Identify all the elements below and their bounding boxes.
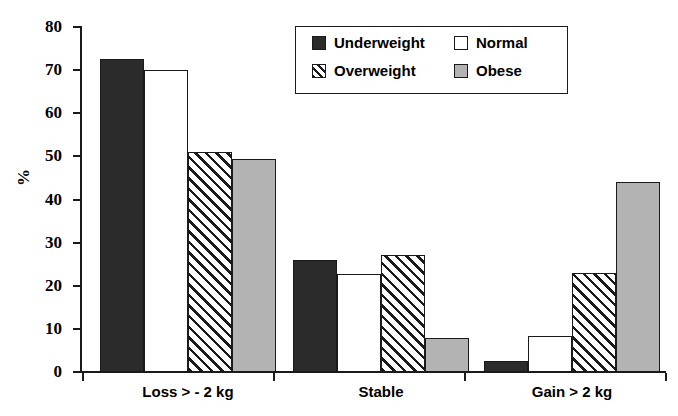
x-axis-tick-mark — [464, 373, 466, 381]
legend-swatch-overweight-icon — [312, 64, 326, 78]
y-axis-tick-mark — [73, 112, 81, 114]
legend-swatch-normal-icon — [454, 36, 468, 50]
x-axis-tick-mark — [273, 373, 275, 381]
y-axis-tick-mark — [73, 26, 81, 28]
y-axis-tick-mark — [73, 371, 81, 373]
x-axis-end-tick-mark — [665, 373, 667, 381]
legend-item-obese: Obese — [454, 63, 522, 79]
bar-underweight-group-0 — [100, 59, 144, 372]
bar-obese-group-2 — [616, 182, 660, 372]
bar-obese-group-0 — [232, 159, 276, 372]
x-axis-category-label: Stable — [273, 382, 489, 402]
y-axis-tick-mark — [73, 155, 81, 157]
y-axis-tick-mark — [73, 242, 81, 244]
bar-normal-group-2 — [528, 336, 572, 372]
x-axis-category-label: Loss > - 2 kg — [80, 382, 296, 402]
legend-swatch-obese-icon — [454, 64, 468, 78]
legend-label: Obese — [476, 63, 522, 79]
y-axis-tick-mark — [73, 285, 81, 287]
legend: UnderweightNormalOverweightObese — [295, 26, 568, 94]
bar-obese-group-1 — [425, 338, 469, 373]
bar-underweight-group-1 — [293, 260, 337, 372]
legend-item-underweight: Underweight — [312, 35, 425, 51]
legend-item-normal: Normal — [454, 35, 528, 51]
legend-label: Normal — [476, 35, 528, 51]
x-axis-category-label: Gain > 2 kg — [464, 382, 678, 402]
bar-overweight-group-0 — [188, 152, 232, 372]
bar-overweight-group-2 — [572, 273, 616, 372]
legend-label: Overweight — [334, 63, 416, 79]
legend-swatch-underweight-icon — [312, 36, 326, 50]
y-axis-tick-mark — [73, 328, 81, 330]
x-axis-tick-mark — [82, 373, 84, 381]
y-axis-tick-mark — [73, 199, 81, 201]
bar-normal-group-0 — [144, 70, 188, 372]
bar-overweight-group-1 — [381, 255, 425, 372]
legend-item-overweight: Overweight — [312, 63, 416, 79]
legend-label: Underweight — [334, 35, 425, 51]
bar-underweight-group-2 — [484, 361, 528, 372]
bar-chart: % 80706050403020100 Loss > - 2 kgStableG… — [0, 0, 678, 416]
bar-normal-group-1 — [337, 274, 381, 372]
y-axis-tick-mark — [73, 69, 81, 71]
